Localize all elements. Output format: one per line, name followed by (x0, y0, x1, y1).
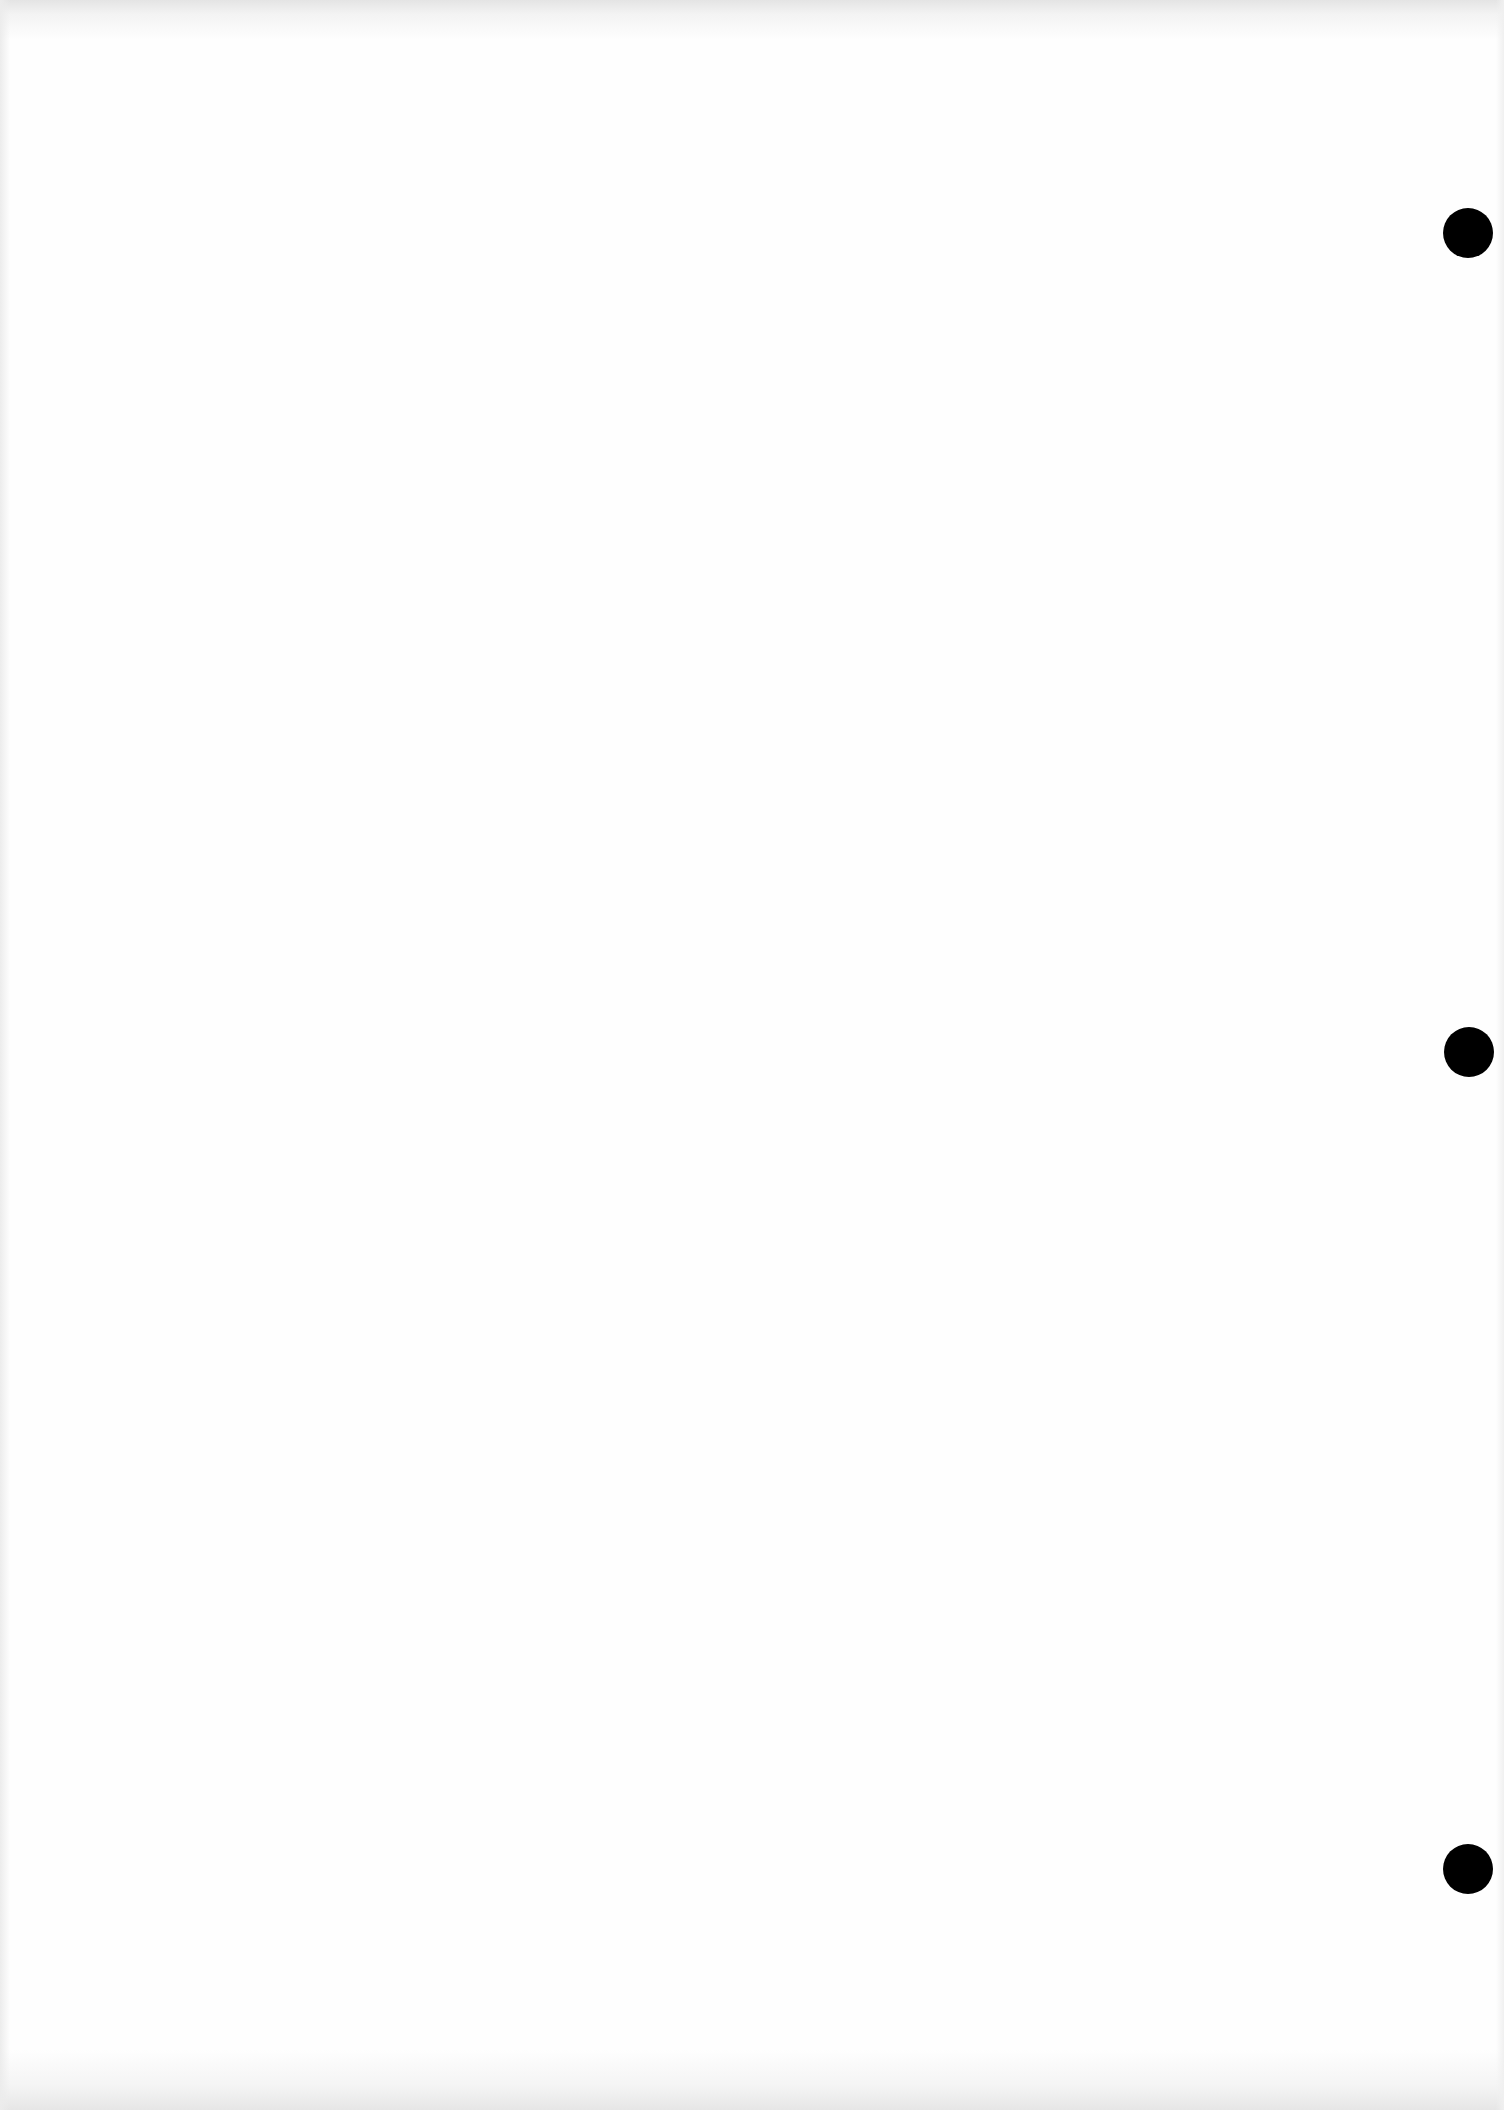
punch-hole-middle (1444, 1027, 1494, 1077)
scan-edge-shadow-right (1496, 0, 1504, 2110)
scan-edge-shadow-top (0, 0, 1504, 40)
punch-hole-bottom (1443, 1844, 1493, 1894)
scanned-page (0, 0, 1504, 2110)
scan-edge-shadow-bottom (0, 2050, 1504, 2110)
scan-edge-shadow-left (0, 0, 10, 2110)
punch-hole-top (1443, 208, 1493, 258)
